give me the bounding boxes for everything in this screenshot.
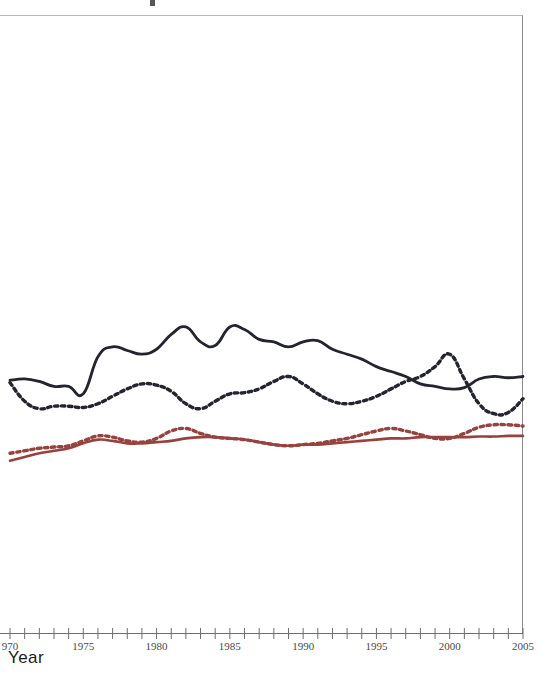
x-axis-tick-labels: 9701975198019851990199520002005 — [2, 640, 535, 652]
plot-border — [0, 16, 523, 635]
x-axis-title: Year — [8, 648, 44, 668]
x-axis-tick-label: 1975 — [72, 640, 95, 652]
plot-canvas: 9701975198019851990199520002005 — [0, 0, 551, 687]
x-axis-tick-label: 2000 — [439, 640, 462, 652]
x-axis-tick-label: 1995 — [365, 640, 388, 652]
data-series-group — [10, 325, 523, 460]
series-line-maroon-dotted — [10, 424, 523, 453]
line-chart-figure: 9701975198019851990199520002005 Year — [0, 0, 551, 687]
x-axis: 9701975198019851990199520002005 — [0, 628, 535, 652]
x-axis-tick-label: 1980 — [146, 640, 169, 652]
x-axis-tick-label: 1990 — [292, 640, 315, 652]
x-axis-tick-label: 1985 — [219, 640, 242, 652]
x-axis-tick-label: 2005 — [512, 640, 535, 652]
